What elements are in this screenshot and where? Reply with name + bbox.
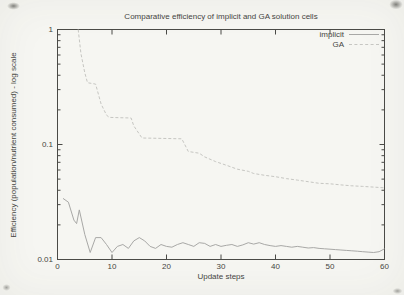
scan-artifact: [1, 283, 12, 292]
plot-area: [57, 29, 385, 260]
x-tick-label: 20: [155, 262, 179, 272]
y-tick-label: 1: [11, 25, 53, 35]
x-tick-label: 60: [373, 262, 397, 272]
scanned-figure: Comparative efficiency of implicit and G…: [0, 0, 404, 295]
scan-artifact: [387, 0, 404, 11]
legend-label-implicit: implicit: [320, 30, 344, 39]
x-tick-label: 0: [46, 262, 70, 272]
chart-title: Comparative efficiency of implicit and G…: [57, 12, 385, 21]
legend-line-sample-implicit: [349, 34, 379, 35]
legend-label-ga: GA: [332, 40, 344, 49]
legend-item-implicit: implicit: [320, 30, 379, 39]
legend-item-ga: GA: [320, 40, 379, 49]
scan-artifact: [5, 1, 22, 11]
x-tick-label: 30: [209, 262, 233, 272]
series-line-implicit: [63, 198, 385, 252]
y-tick-label: 0.1: [11, 140, 53, 150]
x-tick-label: 10: [100, 262, 124, 272]
x-tick-label: 50: [318, 262, 342, 272]
plot-border: [58, 30, 385, 260]
series-line-ga: [78, 30, 384, 188]
legend-line-sample-ga: [349, 44, 379, 45]
x-tick-label: 40: [264, 262, 288, 272]
scan-artifact: [391, 287, 404, 295]
x-axis-label: Update steps: [57, 272, 385, 281]
legend: implicit GA: [320, 30, 379, 49]
